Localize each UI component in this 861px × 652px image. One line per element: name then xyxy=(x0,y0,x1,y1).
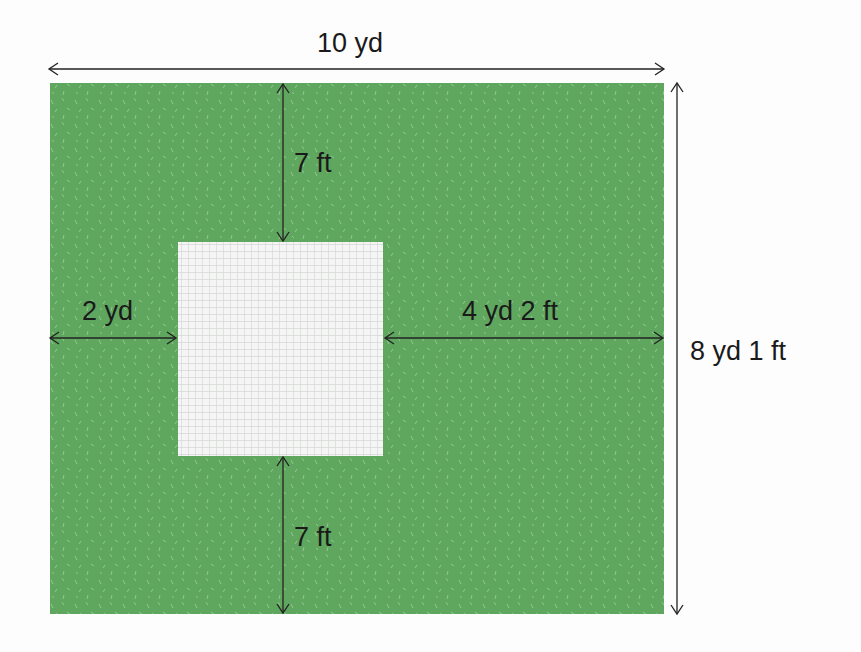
top-gap-label: 7 ft xyxy=(294,148,332,179)
right-gap-label: 4 yd 2 ft xyxy=(462,296,558,327)
width-dimension-arrow xyxy=(49,63,664,75)
height-label: 8 yd 1 ft xyxy=(690,336,786,367)
width-label: 10 yd xyxy=(317,28,383,59)
left-gap-label: 2 yd xyxy=(82,296,133,327)
cutout-square xyxy=(178,242,383,456)
bottom-gap-label: 7 ft xyxy=(294,522,332,553)
height-dimension-arrow xyxy=(671,83,683,614)
